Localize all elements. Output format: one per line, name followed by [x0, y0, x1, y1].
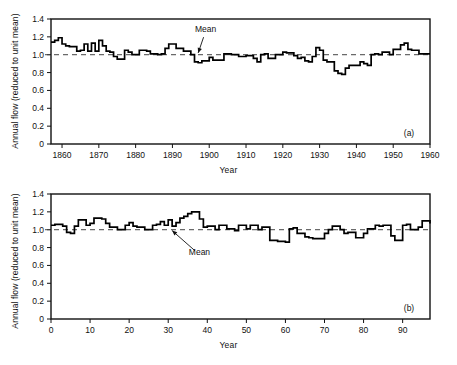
- x-tick-label-panel-a-5: 1910: [237, 150, 256, 160]
- data-series-panel-b: [51, 212, 430, 242]
- x-tick-label-panel-a-4: 1900: [200, 150, 219, 160]
- x-tick-label-panel-a-3: 1890: [163, 150, 182, 160]
- x-tick-label-panel-b-9: 90: [398, 325, 408, 335]
- x-tick-label-panel-b-4: 40: [203, 325, 213, 335]
- panel-tag-panel-a: (a): [404, 128, 415, 138]
- x-tick-label-panel-a-10: 1960: [421, 150, 440, 160]
- x-tick-label-panel-b-7: 70: [320, 325, 330, 335]
- x-tick-label-panel-a-1: 1870: [89, 150, 108, 160]
- x-tick-label-panel-a-0: 1860: [53, 150, 72, 160]
- x-tick-label-panel-a-9: 1950: [384, 150, 403, 160]
- x-tick-label-panel-b-0: 0: [49, 325, 54, 335]
- y-tick-label-panel-a-0: 0: [39, 139, 44, 149]
- x-tick-label-panel-b-2: 20: [124, 325, 134, 335]
- y-tick-label-panel-b-0: 0: [39, 314, 44, 324]
- y-tick-label-panel-a-6: 1.2: [32, 32, 44, 42]
- y-tick-label-panel-b-2: 0.4: [32, 278, 44, 288]
- x-tick-label-panel-b-1: 10: [85, 325, 95, 335]
- x-tick-label-panel-a-2: 1880: [126, 150, 145, 160]
- y-tick-label-panel-b-7: 1.4: [32, 189, 44, 199]
- plot-frame-panel-a: [51, 19, 430, 144]
- figure-root: Annual flow (reduced to unit mean) Year …: [0, 0, 457, 365]
- mean-annotation-arrowhead-panel-a: [198, 47, 202, 52]
- y-tick-label-panel-b-4: 0.8: [32, 243, 44, 253]
- chart-panel-a: Annual flow (reduced to unit mean) Year …: [0, 0, 457, 182]
- data-series-panel-a: [51, 38, 430, 75]
- mean-annotation-label-panel-a: Mean: [195, 24, 217, 34]
- chart-panel-b: Annual flow (reduced to unit mean) Year …: [0, 180, 457, 365]
- mean-annotation-label-panel-b: Mean: [189, 247, 211, 257]
- y-tick-label-panel-a-1: 0.2: [32, 121, 44, 131]
- x-tick-label-panel-a-6: 1920: [273, 150, 292, 160]
- y-tick-label-panel-a-7: 1.4: [32, 14, 44, 24]
- y-tick-label-panel-a-2: 0.4: [32, 103, 44, 113]
- x-tick-label-panel-a-7: 1930: [310, 150, 329, 160]
- y-tick-label-panel-b-3: 0.6: [32, 260, 44, 270]
- x-tick-label-panel-a-8: 1940: [347, 150, 366, 160]
- y-tick-label-panel-b-6: 1.2: [32, 207, 44, 217]
- panel-tag-panel-b: (b): [404, 303, 415, 313]
- y-tick-label-panel-b-1: 0.2: [32, 296, 44, 306]
- x-tick-label-panel-b-5: 50: [242, 325, 252, 335]
- x-tick-label-panel-b-8: 80: [359, 325, 369, 335]
- plot-frame-panel-b: [51, 194, 430, 319]
- plot-area-a: 00.20.40.60.81.01.21.4186018701880189019…: [0, 0, 457, 182]
- x-tick-label-panel-b-3: 30: [163, 325, 173, 335]
- y-tick-label-panel-a-4: 0.8: [32, 68, 44, 78]
- y-tick-label-panel-b-5: 1.0: [32, 225, 44, 235]
- y-tick-label-panel-a-5: 1.0: [32, 50, 44, 60]
- x-tick-label-panel-b-6: 60: [281, 325, 291, 335]
- plot-area-b: 00.20.40.60.81.01.21.4010203040506070809…: [0, 180, 457, 365]
- y-tick-label-panel-a-3: 0.6: [32, 85, 44, 95]
